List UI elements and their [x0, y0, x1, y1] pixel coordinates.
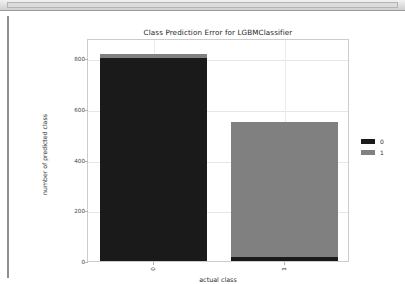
bar-series-layer: [88, 40, 348, 261]
bar-segment[interactable]: [231, 257, 338, 261]
chart-figure: Class Prediction Error for LGBMClassifie…: [9, 12, 405, 281]
x-tick-mark: [284, 262, 285, 265]
legend-swatch: [361, 139, 375, 144]
legend-label: 0: [380, 139, 384, 145]
bar-stack[interactable]: [100, 54, 207, 261]
y-tick-label: 800: [59, 56, 85, 62]
legend-swatch: [361, 150, 375, 155]
y-tick-mark: [85, 211, 88, 212]
plot-area: [87, 39, 349, 262]
y-tick-mark: [85, 161, 88, 162]
y-tick-label: 200: [59, 208, 85, 214]
y-axis-label: number of predicted class: [41, 80, 48, 230]
chart-legend: 01: [361, 136, 405, 158]
x-tick-mark: [153, 262, 154, 265]
y-axis-tick-labels: 0200400600800: [57, 39, 85, 262]
y-tick-mark: [85, 262, 88, 263]
legend-item[interactable]: 1: [361, 147, 405, 158]
x-axis-label: actual class: [87, 276, 349, 284]
toolbar-inner-panel: [7, 2, 398, 8]
legend-item[interactable]: 0: [361, 136, 405, 147]
y-tick-label: 400: [59, 158, 85, 164]
y-tick-mark: [85, 59, 88, 60]
y-tick-label: 600: [59, 107, 85, 113]
bar-segment[interactable]: [231, 122, 338, 258]
legend-label: 1: [380, 150, 384, 156]
y-tick-label: 0: [59, 259, 85, 265]
bar-stack[interactable]: [231, 122, 338, 261]
bar-segment[interactable]: [100, 58, 207, 261]
window-toolbar-strip: [0, 0, 405, 11]
chart-title: Class Prediction Error for LGBMClassifie…: [87, 28, 349, 37]
y-tick-mark: [85, 110, 88, 111]
